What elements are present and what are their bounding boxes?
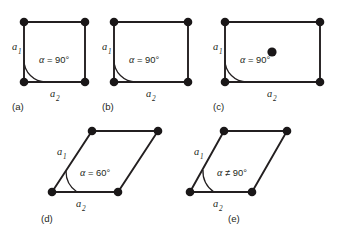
panel-a-caption: (a)	[12, 101, 24, 112]
panel-b-a1-subscript: 1	[108, 48, 112, 56]
lattice-node	[221, 78, 230, 87]
panel-b-cell-outline	[114, 22, 188, 82]
panel-e-angle-arc	[203, 170, 214, 192]
panel-d-a1-subscript: 1	[63, 153, 67, 161]
panel-c-a1-subscript: 1	[219, 48, 223, 56]
lattice-node	[48, 188, 57, 197]
lattice-node	[88, 127, 97, 136]
panel-a: a 1 a 2 α = 90° (a)	[12, 18, 89, 112]
lattice-node	[184, 18, 193, 27]
lattice-node	[20, 18, 29, 27]
panel-d-angle-arc	[66, 171, 77, 192]
lattice-node	[81, 78, 90, 87]
panel-a-a1-subscript: 1	[18, 48, 22, 56]
panel-d: a 1 a 2 α = 60° (d)	[41, 127, 162, 224]
panel-c-a1-label: a	[213, 41, 218, 52]
panel-a-cell-outline	[24, 22, 85, 82]
panel-a-a2-subscript: 2	[56, 95, 60, 103]
lattice-node	[110, 78, 119, 87]
panel-d-angle-value: = 60°	[88, 167, 111, 178]
lattice-node	[220, 127, 229, 136]
lattice-node	[186, 188, 195, 197]
lattice-node	[184, 78, 193, 87]
panel-c-a2-label: a	[267, 88, 272, 99]
lattice-figure: a 1 a 2 α = 90° (a) a 1 a 2 α = 90° (b) …	[0, 0, 337, 234]
panel-e: a 1 a 2 α ≠ 90° (e)	[186, 127, 292, 224]
panel-d-a2-subscript: 2	[82, 205, 86, 213]
panel-a-alpha-symbol: α	[39, 54, 45, 65]
panel-c-caption: (c)	[213, 101, 224, 112]
panel-b-angle-value: = 90°	[137, 54, 160, 65]
lattice-node	[221, 18, 230, 27]
panel-e-cell-outline	[190, 131, 287, 192]
panel-b-alpha-symbol: α	[129, 54, 135, 65]
panel-a-a1-label: a	[12, 41, 17, 52]
panel-e-alpha-symbol: α	[217, 167, 223, 178]
lattice-node	[316, 78, 325, 87]
panel-e-a1-subscript: 1	[200, 153, 204, 161]
lattice-node	[114, 188, 123, 197]
lattice-node	[81, 18, 90, 27]
panel-d-a2-label: a	[76, 198, 81, 209]
panel-d-a1-label: a	[57, 146, 62, 157]
panel-b-a2-subscript: 2	[152, 95, 156, 103]
lattice-node	[248, 188, 257, 197]
panel-b-a1-label: a	[102, 41, 107, 52]
panel-e-caption: (e)	[228, 213, 240, 224]
lattice-node	[316, 18, 325, 27]
panel-e-a2-subscript: 2	[219, 205, 223, 213]
panel-d-alpha-symbol: α	[80, 167, 86, 178]
panel-e-a1-label: a	[194, 146, 199, 157]
panel-c-alpha-symbol: α	[240, 54, 246, 65]
panel-c-a2-subscript: 2	[273, 95, 277, 103]
panel-e-angle-value: ≠ 90°	[225, 167, 247, 178]
lattice-node	[20, 78, 29, 87]
panel-a-angle-value: = 90°	[47, 54, 70, 65]
panel-c-angle-value: = 90°	[248, 54, 271, 65]
panel-a-a2-label: a	[50, 88, 55, 99]
panel-e-a2-label: a	[213, 198, 218, 209]
panel-b: a 1 a 2 α = 90° (b)	[102, 18, 192, 112]
panel-c: a 1 a 2 α = 90° (c)	[213, 18, 324, 112]
panel-b-caption: (b)	[102, 101, 114, 112]
panel-d-caption: (d)	[41, 213, 53, 224]
panel-b-a2-label: a	[146, 88, 151, 99]
lattice-node	[283, 127, 292, 136]
lattice-node	[154, 127, 163, 136]
lattice-node	[110, 18, 119, 27]
